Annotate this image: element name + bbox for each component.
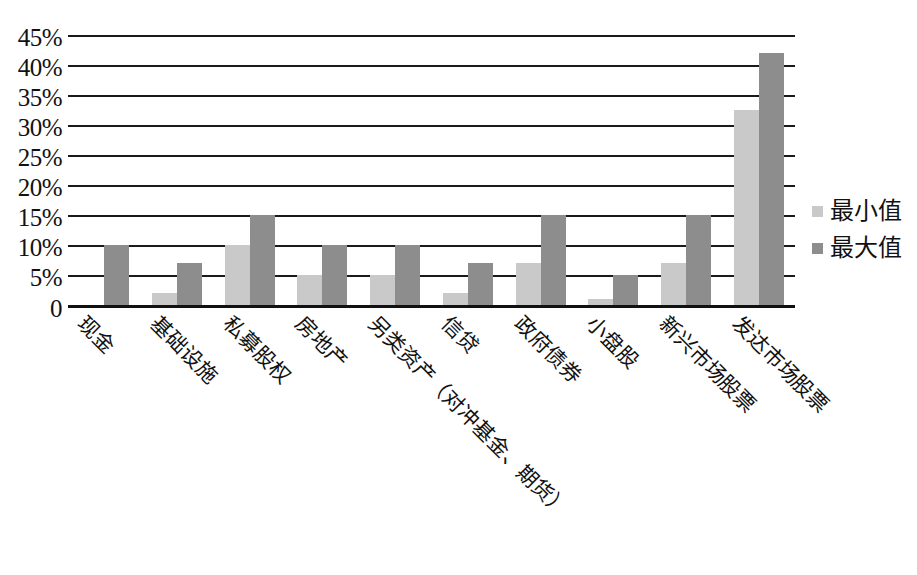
bar-max (468, 263, 493, 305)
bar-min (152, 293, 177, 305)
bar-min (297, 275, 322, 305)
category-label: 信贷 (437, 313, 482, 358)
bar-group (286, 35, 359, 305)
legend-swatch-max-icon (812, 243, 823, 254)
bar-groups (68, 35, 795, 305)
legend-item-max: 最大值 (812, 234, 912, 262)
category-label: 小盘股 (582, 313, 641, 372)
bar-max (395, 245, 420, 305)
bar-group (577, 35, 650, 305)
y-axis-tick-label: 35% (18, 85, 62, 110)
bar-max (541, 215, 566, 305)
bar-max (104, 245, 129, 305)
y-axis-tick-label: 10% (18, 235, 62, 260)
y-axis-tick-label: 20% (18, 175, 62, 200)
bar-min (734, 110, 759, 305)
y-axis-tick-label: 5% (30, 265, 62, 290)
category-label: 私募股权 (219, 313, 293, 387)
bar-min (225, 245, 250, 305)
bar-max (250, 215, 275, 305)
category-label: 现金 (73, 313, 118, 358)
bar-group (213, 35, 286, 305)
bar-max (686, 215, 711, 305)
bar-group (359, 35, 432, 305)
bar-max (177, 263, 202, 305)
bar-group (68, 35, 141, 305)
y-axis-tick-label: 15% (18, 205, 62, 230)
legend-label-min: 最小值 (830, 199, 902, 223)
bar-min (443, 293, 468, 305)
bar-max (613, 275, 638, 305)
bar-max (759, 53, 784, 305)
bar-max (322, 245, 347, 305)
y-axis-tick-label: 0 (50, 296, 62, 321)
chart-legend: 最小值 最大值 (812, 197, 912, 271)
bar-group (141, 35, 214, 305)
y-axis-tick-label: 30% (18, 115, 62, 140)
bar-min (516, 263, 541, 305)
legend-label-max: 最大值 (830, 236, 902, 260)
legend-swatch-min-icon (812, 206, 823, 217)
chart-page: 45%40%35%30%25%20%15%10%5%0 现金基础设施私募股权房地… (0, 0, 917, 575)
bar-group (504, 35, 577, 305)
plot-area: 45%40%35%30%25%20%15%10%5%0 (68, 35, 795, 305)
legend-item-min: 最小值 (812, 197, 912, 225)
y-axis-tick-label: 25% (18, 145, 62, 170)
y-axis-tick-label: 40% (18, 55, 62, 80)
category-label: 政府债券 (510, 313, 584, 387)
bar-group (432, 35, 505, 305)
bar-group (722, 35, 795, 305)
bar-min (661, 263, 686, 305)
y-axis-tick-label: 45% (18, 25, 62, 50)
category-axis-labels: 现金基础设施私募股权房地产另类资产（对冲基金、期货）信贷政府债券小盘股新兴市场股… (68, 305, 795, 570)
bar-min (370, 275, 395, 305)
bar-group (650, 35, 723, 305)
category-label: 房地产 (292, 313, 351, 372)
category-label: 基础设施 (146, 313, 220, 387)
